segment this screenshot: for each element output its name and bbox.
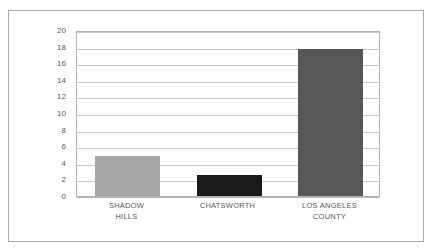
x-axis-tick-label: LOS ANGELES COUNTY (279, 200, 380, 222)
bar-chart-figure: 02468101214161820 SHADOW HILLSCHATSWORTH… (0, 0, 434, 251)
y-axis-tick-label: 0 (62, 193, 66, 201)
y-axis-tick-label: 4 (62, 160, 66, 168)
y-axis-tick-labels: 02468101214161820 (0, 31, 72, 197)
y-axis-tick-label: 10 (57, 110, 66, 118)
y-axis-tick-label: 18 (57, 44, 66, 52)
y-axis-tick-label: 16 (57, 60, 66, 68)
gridline (77, 197, 379, 198)
y-axis-tick-label: 20 (57, 27, 66, 35)
bar[interactable] (298, 49, 363, 196)
x-axis-tick-labels: SHADOW HILLSCHATSWORTHLOS ANGELES COUNTY (76, 200, 380, 234)
y-axis-tick-label: 12 (57, 93, 66, 101)
plot-area (76, 31, 380, 197)
x-axis-tick-label: CHATSWORTH (177, 200, 278, 211)
bar[interactable] (95, 156, 160, 196)
y-axis-tick-label: 2 (62, 176, 66, 184)
y-axis-tick-label: 14 (57, 77, 66, 85)
x-axis-tick-label: SHADOW HILLS (76, 200, 177, 222)
y-axis-tick-label: 6 (62, 143, 66, 151)
y-axis-tick-label: 8 (62, 127, 66, 135)
bar[interactable] (197, 175, 262, 196)
bar-series (77, 32, 379, 196)
